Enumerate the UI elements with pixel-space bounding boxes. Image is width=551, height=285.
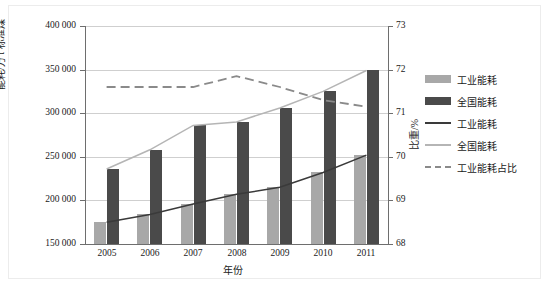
legend-item-label: 工业能耗 [457, 72, 497, 87]
x-axis-line [85, 244, 389, 245]
legend-swatch-icon [425, 122, 451, 124]
y2-axis-tick-label: 73 [396, 21, 406, 31]
y2-axis-tick-label: 68 [396, 239, 406, 249]
line-series-3 [107, 76, 367, 107]
legend-item-3[interactable]: 工业能耗 [425, 112, 545, 134]
legend-item-2[interactable]: 全国能耗 [425, 90, 545, 112]
y2-axis-tick-label: 72 [396, 65, 406, 75]
legend-swatch-icon [425, 97, 451, 105]
chart-legend: 工业能耗全国能耗工业能耗全国能耗工业能耗占比 [425, 68, 545, 178]
y-axis-tick-label: 150 000 [2, 239, 76, 249]
legend-item-label: 全国能耗 [457, 94, 497, 109]
y-axis-tick-label: 300 000 [2, 108, 76, 118]
legend-item-label: 工业能耗占比 [457, 160, 517, 175]
line-series-2 [107, 71, 367, 170]
x-axis-tick-label-2005: 2005 [85, 248, 129, 258]
line-series-1 [107, 155, 367, 222]
chart-root: 能耗/万 t 标准煤 比重/% 年份 150 000200 000250 000… [0, 0, 551, 285]
x-axis-tick-label-2006: 2006 [128, 248, 172, 258]
legend-swatch-icon [425, 166, 451, 168]
legend-item-1[interactable]: 工业能耗 [425, 68, 545, 90]
y-axis-tick-label: 200 000 [2, 195, 76, 205]
y-axis-tick-label: 350 000 [2, 65, 76, 75]
y-axis-title: 能耗/万 t 标准煤 [0, 0, 6, 90]
legend-item-5[interactable]: 工业能耗占比 [425, 156, 545, 178]
legend-item-label: 全国能耗 [457, 138, 497, 153]
y2-axis-line [388, 26, 389, 245]
legend-item-label: 工业能耗 [457, 116, 497, 131]
x-axis-title: 年份 [0, 262, 466, 277]
x-axis-tick-label-2009: 2009 [258, 248, 302, 258]
x-axis-tick-label-2008: 2008 [215, 248, 259, 258]
legend-swatch-icon [425, 144, 451, 146]
y-axis-tick-label: 250 000 [2, 152, 76, 162]
x-axis-tick-label-2007: 2007 [171, 248, 215, 258]
x-axis-tick-label-2010: 2010 [301, 248, 345, 258]
y2-axis-tick-label: 71 [396, 108, 406, 118]
y-axis-tick-label: 400 000 [2, 21, 76, 31]
legend-swatch-icon [425, 75, 451, 83]
x-axis-tick-label-2011: 2011 [344, 248, 388, 258]
y2-axis-tick-label: 70 [396, 152, 406, 162]
y2-axis-title: 比重/% [410, 90, 420, 150]
legend-item-4[interactable]: 全国能耗 [425, 134, 545, 156]
lines-layer [85, 26, 388, 244]
y2-axis-tick-label: 69 [396, 195, 406, 205]
